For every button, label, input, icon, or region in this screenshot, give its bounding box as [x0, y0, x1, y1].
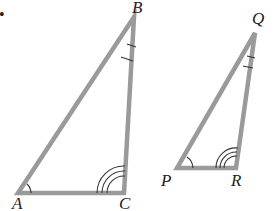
triangle-pqr-edges — [177, 33, 255, 168]
label-p: P — [160, 171, 171, 190]
bullet-dot: • — [0, 6, 5, 23]
angle-c-arc-3 — [97, 166, 125, 193]
label-r: R — [230, 171, 242, 190]
label-b: B — [132, 0, 143, 17]
label-q: Q — [252, 9, 264, 28]
triangle-pqr — [177, 33, 255, 168]
label-c: C — [119, 194, 131, 211]
angle-c-arc-2 — [102, 171, 125, 193]
triangle-abc — [18, 17, 136, 193]
similar-triangles-diagram: • A B C P Q R — [0, 0, 275, 211]
label-a: A — [11, 194, 23, 211]
